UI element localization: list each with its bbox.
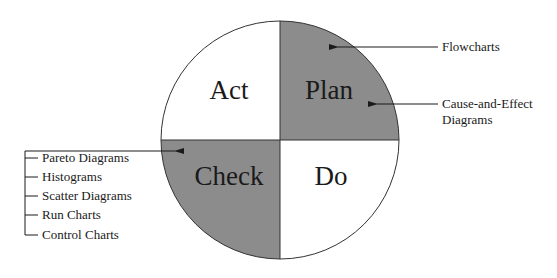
tool-label-cause-effect-line1: Cause-and-Effect bbox=[442, 96, 533, 111]
pdca-diagram: Act Plan Do Check Flowcharts Cause-and-E… bbox=[0, 0, 557, 278]
tool-label-control-charts: Control Charts bbox=[42, 227, 119, 242]
tool-label-pareto: Pareto Diagrams bbox=[42, 150, 129, 165]
tool-label-cause-effect-line2: Diagrams bbox=[442, 112, 493, 127]
quadrant-label-act: Act bbox=[210, 75, 249, 105]
quadrant-check bbox=[161, 140, 280, 259]
tool-label-run-charts: Run Charts bbox=[42, 207, 101, 222]
tool-label-scatter: Scatter Diagrams bbox=[42, 188, 132, 203]
quadrant-do bbox=[280, 140, 399, 259]
quadrant-label-plan: Plan bbox=[305, 75, 354, 105]
quadrant-label-check: Check bbox=[195, 161, 264, 191]
tool-label-flowcharts: Flowcharts bbox=[442, 39, 500, 54]
quadrant-label-do: Do bbox=[315, 161, 348, 191]
tool-label-histograms: Histograms bbox=[42, 169, 102, 184]
